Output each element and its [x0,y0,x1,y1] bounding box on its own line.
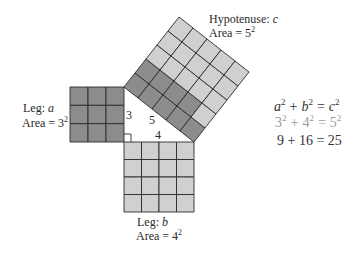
leg-b-label: Leg: b [137,215,168,229]
grid-cell [159,142,177,160]
grid-cell [124,160,142,178]
grid-cell [142,160,160,178]
equation-sum: 9 + 16 = 25 [277,133,342,148]
pythagorean-diagram: 3 5 4 Leg: a Area = 32 Leg: b Area = 42 … [0,0,364,258]
grid-cell [106,87,124,105]
equation-symbolic: a2+b2=c2 [274,97,340,114]
hypotenuse-area: Area = 52 [209,25,255,40]
grid-cell [70,87,88,105]
grid-cell [159,160,177,178]
grid-cell [177,195,195,213]
leg-b-area: Area = 42 [136,228,182,243]
equation-numeric: 32+42=52 [275,113,341,130]
grid-cell [124,195,142,213]
grid-cell [88,105,106,123]
grid-cell [142,177,160,195]
leg-a-area: Area = 32 [22,115,68,130]
side-c-label: 5 [149,113,155,127]
grid-cell [142,142,160,160]
grid-cell [142,195,160,213]
side-a-label: 3 [126,108,132,122]
grid-cell [159,177,177,195]
grid-cell [88,124,106,142]
leg-a-square [70,87,124,142]
grid-cell [177,142,195,160]
grid-cell [106,124,124,142]
right-angle-marker [124,134,131,142]
grid-cell [88,87,106,105]
grid-cell [159,195,177,213]
grid-cell [70,124,88,142]
grid-cell [124,142,142,160]
grid-cell [177,160,195,178]
leg-a-label: Leg: a [23,101,54,115]
grid-cell [70,105,88,123]
leg-b-square [124,142,194,212]
side-b-label: 4 [155,128,161,142]
grid-cell [177,177,195,195]
grid-cell [124,177,142,195]
hypotenuse-label: Hypotenuse: c [209,12,279,26]
grid-cell [106,105,124,123]
